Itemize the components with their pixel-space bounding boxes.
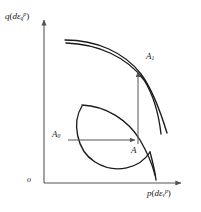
y-axis-label: q(dεqp) bbox=[5, 12, 29, 22]
point-label-a1-subscript: 1 bbox=[152, 55, 155, 61]
point-label-a0-subscript: 0 bbox=[58, 133, 61, 139]
critical-state-line bbox=[150, 152, 156, 180]
origin-label: o bbox=[27, 176, 31, 184]
y-axis-label-close: ) bbox=[26, 11, 29, 21]
x-axis-label: p(dεvp) bbox=[147, 189, 171, 199]
plasticity-yield-surface-figure: q(dεqp) p(dεvp) o A1 A0 A bbox=[0, 0, 201, 212]
x-axis-label-close: ) bbox=[168, 188, 171, 198]
point-label-a-letter: A bbox=[131, 145, 137, 155]
point-label-a: A bbox=[131, 146, 137, 155]
point-label-a1: A1 bbox=[146, 52, 154, 62]
point-label-a0: A0 bbox=[52, 130, 60, 140]
